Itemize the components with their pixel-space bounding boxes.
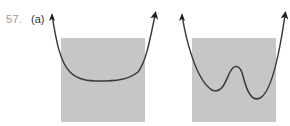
shaded-region-right: [192, 38, 276, 122]
flat-bottom-graph: [49, 13, 155, 122]
double-well-graph: [179, 13, 285, 122]
arrow-up-left-icon: [179, 13, 185, 21]
figure-graphs: [0, 0, 290, 126]
arrow-up-left-icon: [49, 13, 55, 21]
shaded-region-left: [61, 38, 145, 122]
